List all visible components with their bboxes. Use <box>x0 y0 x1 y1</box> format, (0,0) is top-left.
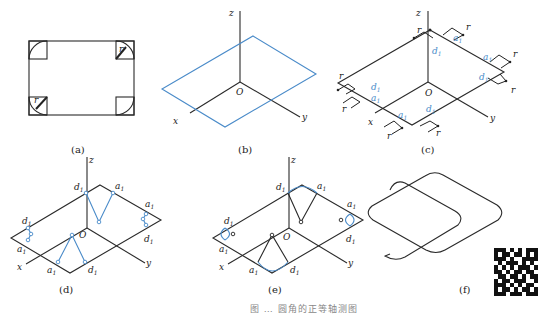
radius-label: r <box>436 128 441 138</box>
svg-text:d1: d1 <box>426 104 436 115</box>
axis-label-y: y <box>347 258 354 268</box>
svg-text:d1: d1 <box>74 182 84 193</box>
axis-label-x: x <box>368 117 373 127</box>
radius-label: r <box>513 49 518 59</box>
radius-label: r <box>387 131 392 141</box>
panel-label-b: (b) <box>238 144 252 155</box>
svg-text:a1: a1 <box>115 181 124 192</box>
radius-label: r <box>339 71 344 81</box>
axis-label-z: z <box>228 8 234 18</box>
panel-d: z O x y d1 a1 a1 d1 d1 a1 a1 d1 (d) <box>11 155 161 295</box>
svg-text:a1: a1 <box>145 199 154 210</box>
panel-b: z O x y (b) <box>162 8 316 155</box>
svg-text:a1: a1 <box>317 181 326 192</box>
svg-text:d1: d1 <box>371 82 381 93</box>
axis-label-y: y <box>145 258 152 268</box>
panel-f: (f) <box>368 173 502 295</box>
panel-label-e: (e) <box>268 284 282 295</box>
svg-text:d1: d1 <box>479 72 489 83</box>
axis-label-x: x <box>219 262 224 272</box>
panel-label-c: (c) <box>421 144 435 155</box>
axis-label-z: z <box>88 155 94 165</box>
svg-text:a1: a1 <box>483 52 492 63</box>
qr-code[interactable] <box>494 248 538 296</box>
origin-label: O <box>283 232 291 242</box>
svg-text:d1: d1 <box>290 265 300 276</box>
axis-label-x: x <box>173 116 178 126</box>
svg-text:a1: a1 <box>453 33 462 44</box>
svg-text:a1: a1 <box>47 265 56 276</box>
radius-label: r <box>34 95 39 105</box>
axis-label-z: z <box>290 155 296 165</box>
origin-label: O <box>79 230 87 240</box>
svg-text:d1: d1 <box>22 216 32 227</box>
svg-text:d1: d1 <box>432 46 442 57</box>
radius-label: r <box>466 22 471 32</box>
panel-c: z O x y r r r r r r r r d1 a1 a1 d1 d1 a… <box>337 8 518 155</box>
svg-text:d1: d1 <box>224 216 234 227</box>
axis-label-y: y <box>489 113 496 123</box>
axis-label-z: z <box>415 8 421 18</box>
panel-a: r r (a) <box>29 41 134 155</box>
axis-label-x: x <box>17 262 22 272</box>
svg-text:d1: d1 <box>88 265 98 276</box>
radius-label: r <box>511 85 516 95</box>
origin-label: O <box>425 88 433 98</box>
panel-e: z O x y d1 a1 a1 d1 d1 a1 a1 d1 (e) <box>213 155 363 295</box>
svg-text:a1: a1 <box>398 110 407 121</box>
axis-label-y: y <box>301 112 308 122</box>
radius-label: r <box>417 25 422 35</box>
svg-text:a1: a1 <box>347 199 356 210</box>
origin-label: O <box>236 87 244 97</box>
panel-label-a: (a) <box>71 144 85 155</box>
radius-label: r <box>342 104 347 114</box>
svg-text:a1: a1 <box>371 93 380 104</box>
figure-caption: 图 … 圆角的正等轴测图 <box>250 302 358 315</box>
radius-label: r <box>119 44 124 54</box>
panel-label-d: (d) <box>59 284 73 295</box>
svg-text:d1: d1 <box>346 234 356 245</box>
svg-text:d1: d1 <box>144 234 154 245</box>
panel-label-f: (f) <box>459 284 471 295</box>
svg-text:a1: a1 <box>249 265 258 276</box>
svg-text:d1: d1 <box>276 182 286 193</box>
